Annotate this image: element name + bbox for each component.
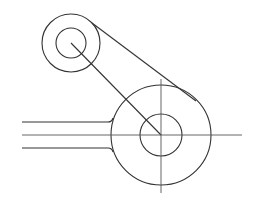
tangent-line xyxy=(92,23,196,101)
link-centerline xyxy=(71,43,161,135)
link-drawing xyxy=(0,0,257,206)
arm-bottom-edge xyxy=(22,148,113,152)
arm-top-edge xyxy=(22,118,113,122)
